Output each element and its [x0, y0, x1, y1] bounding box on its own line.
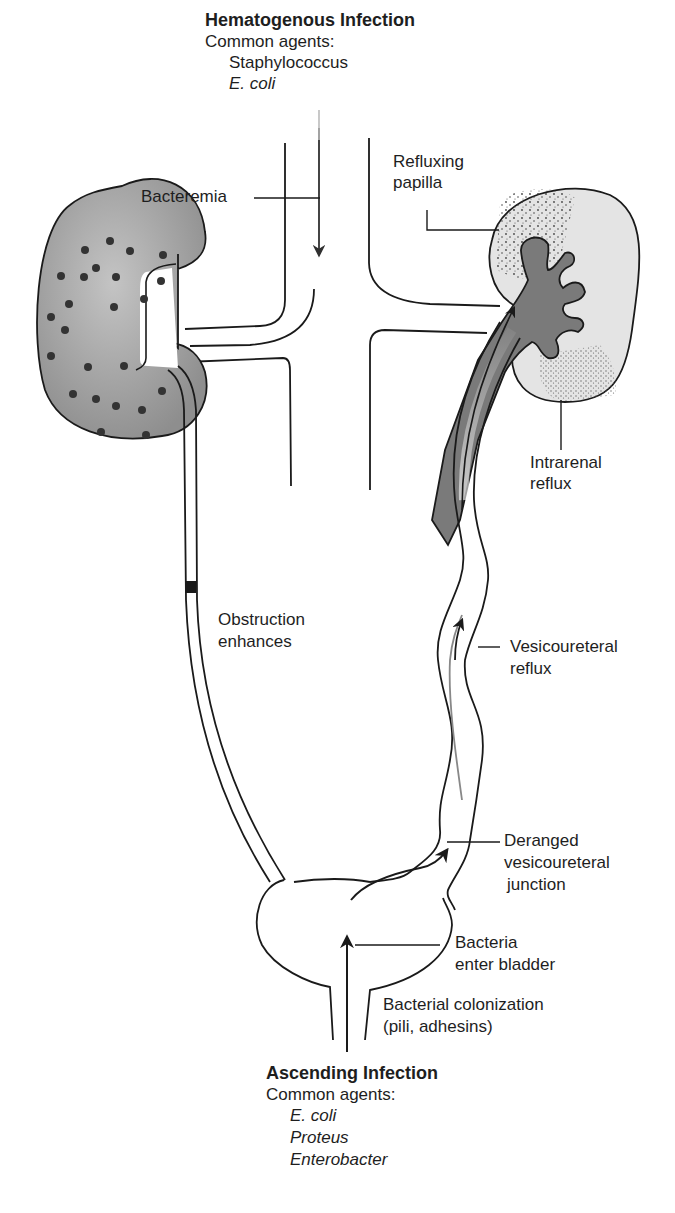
label-deranged-junction: junction — [507, 874, 566, 895]
hematogenous-agent: E. coli — [229, 73, 275, 94]
label-vesicoureteral-reflux: Vesicoureteral — [510, 636, 618, 657]
label-refluxing-papilla: Refluxing — [393, 151, 464, 172]
label-obstruction-enhances: enhances — [218, 631, 292, 652]
ascending-agent: E. coli — [290, 1105, 336, 1126]
label-intrarenal-reflux: Intrarenal — [530, 452, 602, 473]
ascending-title: Ascending Infection — [266, 1063, 438, 1084]
label-bacterial-colonization: (pili, adhesins) — [383, 1016, 493, 1037]
label-bacteria-enter-bladder: Bacteria — [455, 932, 517, 953]
label-deranged-junction: vesicoureteral — [504, 852, 610, 873]
bladder-reflux-arrow — [351, 850, 447, 900]
hematogenous-subtitle: Common agents: — [205, 31, 334, 52]
label-vesicoureteral-reflux: reflux — [510, 658, 552, 679]
obstruction-marker — [185, 581, 196, 593]
right-ureter — [370, 308, 520, 910]
label-deranged-junction: Deranged — [504, 830, 579, 851]
left-kidney — [37, 179, 207, 439]
label-obstruction-enhances: Obstruction — [218, 609, 305, 630]
ascending-agent: Enterobacter — [290, 1149, 387, 1170]
label-refluxing-papilla: papilla — [393, 172, 442, 193]
hematogenous-title: Hematogenous Infection — [205, 10, 415, 31]
urinary-tract-diagram — [0, 0, 675, 1213]
label-intrarenal-reflux: reflux — [530, 473, 572, 494]
ascending-subtitle: Common agents: — [266, 1084, 395, 1105]
hematogenous-agent: Staphylococcus — [229, 52, 348, 73]
label-bacteria-enter-bladder: enter bladder — [455, 954, 555, 975]
label-bacteremia: Bacteremia — [141, 186, 227, 207]
label-bacterial-colonization: Bacterial colonization — [383, 994, 544, 1015]
ascending-agent: Proteus — [290, 1127, 349, 1148]
